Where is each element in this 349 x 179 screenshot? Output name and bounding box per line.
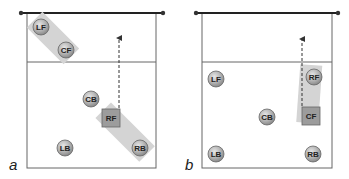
player-label: CF xyxy=(61,46,72,55)
net-post-icon xyxy=(161,11,165,15)
player-label: CB xyxy=(85,95,97,104)
player-rf: RF xyxy=(306,69,322,85)
player-cf: CF xyxy=(58,42,74,58)
player-lb: LB xyxy=(208,146,224,162)
player-cb: CB xyxy=(83,91,99,107)
net-post-icon xyxy=(194,11,198,15)
panel-label-b: b xyxy=(185,156,193,173)
player-cb: CB xyxy=(259,109,275,125)
player-lf: LF xyxy=(33,19,49,35)
player-label: LB xyxy=(60,144,71,153)
player-label: LF xyxy=(211,75,221,84)
player-cf-setter: CF xyxy=(302,107,320,125)
player-label: LF xyxy=(36,23,46,32)
panel-b: LF RF CB CF LB RB b xyxy=(185,11,340,173)
player-label: LB xyxy=(211,150,222,159)
panel-a: LF CF CB RF LB RB a xyxy=(9,11,165,173)
player-label: RB xyxy=(307,150,319,159)
player-lb: LB xyxy=(57,140,73,156)
player-label: RB xyxy=(134,144,146,153)
net-post-icon xyxy=(336,11,340,15)
player-label: CB xyxy=(261,113,273,122)
rotation-diagram: LF CF CB RF LB RB a xyxy=(0,0,349,179)
net-post-icon xyxy=(19,11,23,15)
player-label: RF xyxy=(309,73,320,82)
player-rb: RB xyxy=(305,146,321,162)
player-rf-setter: RF xyxy=(102,109,120,127)
panel-label-a: a xyxy=(9,156,17,173)
player-rb: RB xyxy=(132,140,148,156)
player-label: RF xyxy=(106,114,117,123)
player-label: CF xyxy=(306,112,317,121)
player-lf: LF xyxy=(208,71,224,87)
